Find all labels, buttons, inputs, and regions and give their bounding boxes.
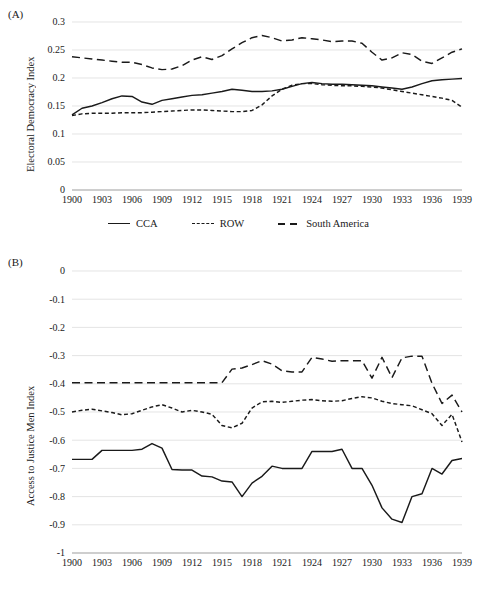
x-tick-label: 1930 <box>362 557 382 568</box>
y-tick-label: -0.6 <box>49 435 65 446</box>
y-tick-label: -0.9 <box>49 519 65 530</box>
x-tick-label: 1933 <box>392 194 412 205</box>
x-tick-label: 1909 <box>152 557 172 568</box>
x-tick-label: 1930 <box>362 194 382 205</box>
x-tick-label: 1927 <box>332 194 352 205</box>
series-line-cca <box>72 79 462 115</box>
legend-swatch-solid-icon <box>108 223 130 224</box>
x-tick-label: 1915 <box>212 194 232 205</box>
legend-label: ROW <box>220 218 245 229</box>
y-tick-label: -0.2 <box>49 322 65 333</box>
legend-item-south-america: South America <box>278 218 369 229</box>
x-tick-label: 1933 <box>392 557 412 568</box>
x-tick-label: 1903 <box>92 194 112 205</box>
y-tick-label: 0 <box>60 265 65 276</box>
x-tick-label: 1912 <box>182 194 202 205</box>
panel-b: (B) Access to Justice Men Index 0-0.1-0.… <box>0 253 477 603</box>
legend-label: South America <box>306 218 369 229</box>
series-line-cca <box>72 444 462 523</box>
panel-a-plot: 00.050.10.150.20.250.3190019031906190919… <box>0 0 477 250</box>
x-tick-label: 1918 <box>242 557 262 568</box>
y-tick-label: -0.1 <box>49 294 65 305</box>
legend-swatch-dash-long-icon <box>278 223 300 225</box>
panel-a: (A) Electoral Democracy Index 00.050.10.… <box>0 0 477 250</box>
panel-b-plot: 0-0.1-0.2-0.3-0.4-0.5-0.6-0.7-0.8-0.9-11… <box>0 253 477 603</box>
y-tick-label: 0.15 <box>48 100 66 111</box>
x-tick-label: 1906 <box>122 194 142 205</box>
legend-swatch-dash-short-icon <box>192 223 214 224</box>
x-tick-label: 1939 <box>452 557 472 568</box>
x-tick-label: 1936 <box>422 557 442 568</box>
x-tick-label: 1900 <box>62 194 82 205</box>
x-tick-label: 1900 <box>62 557 82 568</box>
y-tick-label: -0.8 <box>49 491 65 502</box>
y-tick-label: -0.4 <box>49 378 65 389</box>
y-tick-label: -0.3 <box>49 350 65 361</box>
x-tick-label: 1915 <box>212 557 232 568</box>
x-tick-label: 1918 <box>242 194 262 205</box>
y-tick-label: 0.05 <box>48 156 66 167</box>
x-tick-label: 1912 <box>182 557 202 568</box>
x-tick-label: 1921 <box>272 194 292 205</box>
x-tick-label: 1939 <box>452 194 472 205</box>
y-tick-label: 0.25 <box>48 44 66 55</box>
y-tick-label: -0.7 <box>49 463 65 474</box>
x-tick-label: 1924 <box>302 557 322 568</box>
x-tick-label: 1903 <box>92 557 112 568</box>
legend-item-cca: CCA <box>108 218 158 229</box>
y-tick-label: 0.3 <box>53 16 66 27</box>
legend-item-row: ROW <box>192 218 245 229</box>
y-tick-label: 0.2 <box>53 72 66 83</box>
x-tick-label: 1906 <box>122 557 142 568</box>
panel-a-legend: CCAROWSouth America <box>0 218 477 229</box>
x-tick-label: 1921 <box>272 557 292 568</box>
x-tick-label: 1936 <box>422 194 442 205</box>
y-tick-label: 0.1 <box>53 128 66 139</box>
legend-label: CCA <box>136 218 158 229</box>
series-line-row <box>72 397 462 442</box>
x-tick-label: 1924 <box>302 194 322 205</box>
series-line-south-america <box>72 35 462 69</box>
y-tick-label: -0.5 <box>49 406 65 417</box>
x-tick-label: 1909 <box>152 194 172 205</box>
x-tick-label: 1927 <box>332 557 352 568</box>
